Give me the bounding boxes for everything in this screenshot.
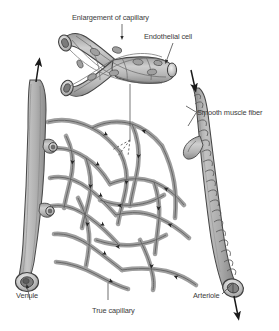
capillary-bed <box>48 120 196 290</box>
label-arteriole: Arteriole <box>193 291 220 300</box>
enlarged-capillary <box>57 33 177 97</box>
arteriole-branch-stub <box>183 136 203 159</box>
arteriole-flow-arrow <box>234 296 238 316</box>
label-endothelial-cell: Endothelial cell <box>144 32 192 41</box>
capillary-bed-diagram: Enlargement of capillary Endothelial cel… <box>0 0 279 331</box>
arteriole-inflow-arrow <box>191 70 195 88</box>
venule-flow-arrow <box>36 62 39 82</box>
diagram-artwork <box>0 0 279 331</box>
label-true-capillary: True capillary <box>92 306 135 315</box>
leader-endothelial-cell <box>166 43 173 62</box>
label-enlargement-of-capillary: Enlargement of capillary <box>72 13 149 22</box>
venule-mouth <box>16 273 39 292</box>
leader-smooth-muscle <box>186 106 196 126</box>
label-venule: Venule <box>16 291 38 300</box>
arteriole-vessel <box>183 70 245 316</box>
label-smooth-muscle-fiber: Smooth muscle fiber <box>197 108 262 117</box>
capillary-open-end-right <box>167 63 176 77</box>
